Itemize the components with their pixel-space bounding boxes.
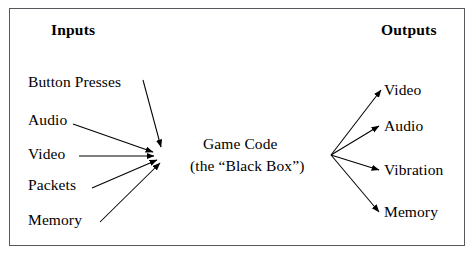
output-label-memory: Memory	[384, 204, 438, 220]
input-label-button-presses: Button Presses	[28, 74, 121, 90]
input-label-video: Video	[28, 146, 65, 162]
center-label-line1: Game Code	[203, 136, 278, 152]
center-label-line2: (the “Black Box”)	[190, 158, 304, 174]
output-label-audio: Audio	[384, 118, 423, 134]
input-label-memory: Memory	[28, 212, 82, 228]
output-label-vibration: Vibration	[384, 162, 443, 178]
input-label-audio: Audio	[28, 112, 67, 128]
input-label-packets: Packets	[28, 177, 76, 193]
output-label-video: Video	[384, 82, 421, 98]
diagram-canvas: Inputs Outputs Button Presses Audio Vide…	[0, 0, 476, 262]
heading-outputs: Outputs	[381, 22, 437, 38]
heading-inputs: Inputs	[51, 22, 95, 38]
